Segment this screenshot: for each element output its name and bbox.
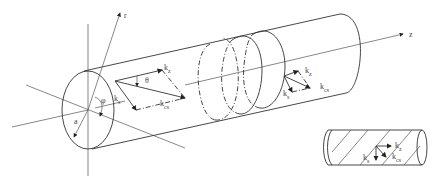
helix-ring-3 — [252, 31, 285, 108]
kz-vector-right — [284, 71, 298, 76]
r-axis-label: r — [124, 12, 127, 20]
inset-kz-label: kz — [395, 142, 402, 152]
kcs-label-right: kcs — [320, 83, 329, 93]
theta-label: θ — [145, 77, 149, 85]
inset-hatched-cylinder — [324, 130, 428, 165]
kz-vector — [115, 70, 162, 81]
helix-ring-1b — [215, 38, 238, 120]
phi-label: φ — [101, 97, 106, 105]
cylinder-diagram — [0, 0, 438, 180]
helix-ring-2b — [222, 40, 240, 114]
radius-label: a — [74, 118, 78, 126]
inset-kcs-vector — [376, 146, 386, 157]
kz-label: kz — [164, 64, 171, 74]
inset-ks-label: ks — [363, 154, 369, 164]
ks-label-right: ks — [283, 90, 289, 100]
kz-label-right: kz — [305, 67, 312, 77]
kcs-label: kcs — [160, 100, 169, 110]
cylinder-top-edge — [84, 14, 340, 71]
inset-kcs-label: kcs — [392, 153, 401, 163]
z-axis-label: z — [409, 31, 413, 39]
ks-label: ks — [114, 95, 120, 105]
z-axis-inner — [95, 101, 125, 108]
helix-ring-1 — [198, 44, 215, 120]
cylinder-back-end — [340, 14, 360, 93]
